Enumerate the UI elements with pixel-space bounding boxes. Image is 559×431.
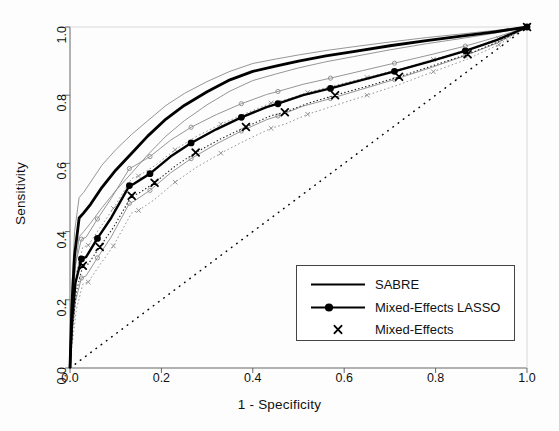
x-axis-title: 1 - Specificity [0, 397, 559, 412]
mixed-effects-lasso-marker [94, 235, 101, 242]
mixed-effects-lasso-marker [275, 100, 282, 107]
x-tick-label: 0.6 [335, 371, 352, 385]
mixed-effects-lasso-marker [391, 68, 398, 75]
mixed-effects-lasso-marker [238, 114, 245, 121]
x-tick-label: 1.0 [518, 371, 535, 385]
mixed-effects-lasso-marker [147, 170, 154, 177]
y-tick-label: 0.6 [55, 162, 69, 202]
mixed-effects-band-marker [136, 174, 141, 179]
mixed-effects-lasso-marker [126, 182, 133, 189]
mixed-effects-band-marker [365, 93, 370, 98]
mixed-effects-lasso-marker [327, 85, 334, 92]
x-marker-icon [307, 317, 369, 342]
mixed-effects-marker [151, 179, 158, 186]
solid-line-icon [307, 272, 369, 297]
y-tick-label: 0.4 [55, 231, 69, 271]
mixed-effects-band-marker [496, 42, 501, 47]
mixed-effects-marker [96, 244, 103, 251]
plot-canvas [0, 0, 559, 431]
x-tick-label: 0.8 [427, 371, 444, 385]
mixed-effects-marker [192, 149, 199, 156]
mixed-effects-lasso-marker [78, 255, 85, 262]
legend-label-sabre: SABRE [375, 272, 419, 297]
y-tick-label: 0.2 [55, 299, 69, 339]
y-tick-label: 1.0 [55, 26, 69, 66]
y-tick-label: 0.0 [55, 367, 69, 407]
x-tick-label: 0.2 [153, 371, 170, 385]
roc-chart-figure: 1 - Specificity Sensitivity 0.00.20.40.6… [0, 0, 559, 431]
mixed-effects-lasso-marker [462, 47, 469, 54]
legend-item-mixed-effects: Mixed-Effects [297, 317, 516, 342]
mixed-effects-band-marker [305, 112, 310, 117]
y-axis-title: Sensitivity [13, 134, 28, 254]
mixed-effects-lasso-marker [188, 140, 195, 147]
mixed-effects-band-marker [219, 151, 224, 156]
mixed-effects-band-marker [269, 126, 274, 131]
y-tick-label: 0.8 [55, 94, 69, 134]
mixed-effects-band-marker [86, 243, 91, 248]
legend: SABRE Mixed-Effects LASSO Mixed-Effects [296, 265, 515, 341]
mixed-effects-band-marker [173, 180, 178, 185]
mixed-effects-band-marker [431, 69, 436, 74]
mixed-effects-band-marker [86, 280, 91, 285]
mixed-effects-band-marker [111, 244, 116, 249]
mixed-effects-band-marker [136, 208, 141, 213]
legend-item-sabre: SABRE [297, 272, 516, 297]
x-tick-label: 0.4 [244, 371, 261, 385]
legend-label-mixed-effects: Mixed-Effects [375, 317, 454, 342]
mixed-effects-marker [128, 192, 135, 199]
